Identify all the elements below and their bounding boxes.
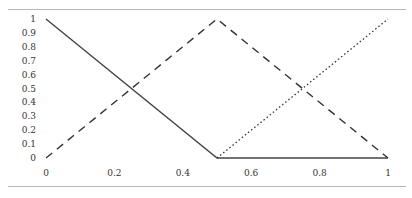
x-tick-label: 0.4 <box>176 168 191 178</box>
y-tick-label: 0.3 <box>22 111 37 121</box>
y-tick-label: 0.1 <box>22 139 36 149</box>
y-tick-label: 0.6 <box>22 70 37 80</box>
x-tick-label: 0.2 <box>107 168 121 178</box>
x-tick-label: 0.8 <box>312 168 327 178</box>
y-tick-label: 0.7 <box>22 56 37 66</box>
y-tick-label: 0.5 <box>22 84 37 94</box>
dashed-series-line <box>46 19 388 158</box>
plot-lines <box>46 19 388 158</box>
y-tick-label: 0.2 <box>22 125 36 135</box>
y-axis-ticks: 00.10.20.30.40.50.60.70.80.91 <box>22 14 37 163</box>
y-tick-label: 0.8 <box>22 42 37 52</box>
x-tick-label: 0 <box>43 168 49 178</box>
x-tick-label: 1 <box>385 168 391 178</box>
y-tick-label: 0.4 <box>22 97 37 107</box>
y-tick-label: 1 <box>30 14 36 24</box>
solid-series-line <box>46 19 388 158</box>
y-tick-label: 0 <box>30 153 36 163</box>
y-tick-label: 0.9 <box>22 28 37 38</box>
x-tick-label: 0.6 <box>244 168 259 178</box>
line-chart: 00.10.20.30.40.50.60.70.80.91 00.20.40.6… <box>0 0 412 198</box>
x-axis-ticks: 00.20.40.60.81 <box>43 168 391 178</box>
